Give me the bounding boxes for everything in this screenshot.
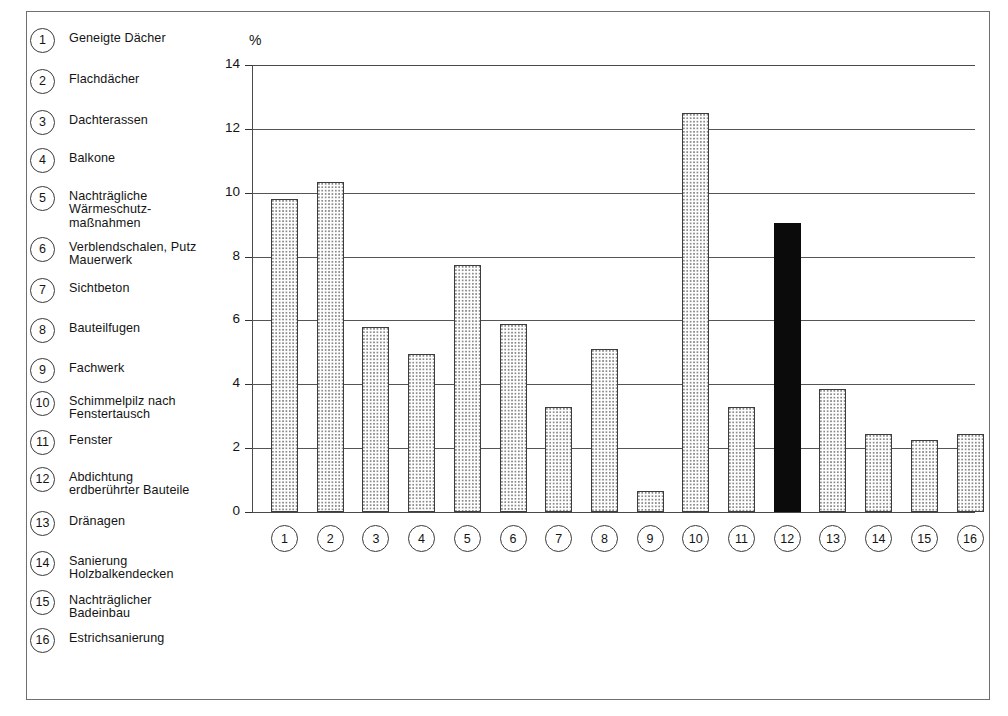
legend-number-badge: 9: [30, 358, 55, 383]
legend-item-label: Verblendschalen, Putz Mauerwerk: [69, 237, 196, 268]
plot-baseline: [252, 512, 975, 513]
legend-item-12: 12Abdichtung erdberührter Bauteile: [30, 467, 226, 498]
legend-number-badge: 5: [30, 186, 55, 211]
bar-16: [957, 434, 984, 512]
x-axis-badge-12: 12: [774, 525, 801, 552]
legend-item-label: Dachterassen: [69, 110, 148, 127]
y-axis-unit-label: %: [249, 32, 261, 48]
y-tick-label-6: 6: [206, 311, 240, 326]
legend-item-label: Fachwerk: [69, 358, 124, 375]
legend-number-badge: 12: [30, 467, 55, 492]
x-axis-badge-5: 5: [454, 525, 481, 552]
x-axis-badge-1: 1: [271, 525, 298, 552]
legend-number-badge: 13: [30, 511, 55, 536]
legend-item-label: Flachdächer: [69, 69, 139, 86]
legend-item-2: 2Flachdächer: [30, 69, 226, 94]
x-axis-badge-2: 2: [317, 525, 344, 552]
y-tick-label-14: 14: [206, 56, 240, 71]
legend-number-badge: 1: [30, 28, 55, 53]
y-tick-label-12: 12: [206, 120, 240, 135]
legend-item-4: 4Balkone: [30, 148, 226, 173]
bar-12: [774, 223, 801, 512]
x-axis-badge-3: 3: [362, 525, 389, 552]
legend-number-badge: 16: [30, 628, 55, 653]
legend-number-badge: 15: [30, 590, 55, 615]
y-tick-mark-12: [245, 129, 252, 130]
legend-number-badge: 10: [30, 391, 55, 416]
x-axis-badge-6: 6: [500, 525, 527, 552]
legend-number-badge: 4: [30, 148, 55, 173]
y-tick-label-2: 2: [206, 439, 240, 454]
y-tick-mark-2: [245, 448, 252, 449]
legend-item-16: 16Estrichsanierung: [30, 628, 226, 653]
x-axis-badge-15: 15: [911, 525, 938, 552]
legend-number-badge: 11: [30, 430, 55, 455]
legend-item-label: Geneigte Dächer: [69, 28, 166, 45]
legend-item-13: 13Dränagen: [30, 511, 226, 536]
legend-item-label: Nachträgliche Wärmeschutz- maßnahmen: [69, 186, 151, 230]
x-axis-badge-8: 8: [591, 525, 618, 552]
legend-item-label: Sanierung Holzbalkendecken: [69, 551, 174, 582]
legend-item-label: Abdichtung erdberührter Bauteile: [69, 467, 189, 498]
legend-item-label: Estrichsanierung: [69, 628, 164, 645]
bar-9: [637, 491, 664, 512]
bar-2: [317, 182, 344, 512]
legend-item-7: 7Sichtbeton: [30, 278, 226, 303]
y-tick-mark-14: [245, 65, 252, 66]
y-tick-mark-4: [245, 384, 252, 385]
y-tick-mark-6: [245, 320, 252, 321]
bar-7: [545, 407, 572, 512]
x-axis-badge-11: 11: [728, 525, 755, 552]
y-tick-label-0: 0: [206, 503, 240, 518]
legend-number-badge: 6: [30, 237, 55, 262]
legend-item-label: Balkone: [69, 148, 115, 165]
y-tick-mark-10: [245, 193, 252, 194]
bar-series: [252, 65, 975, 512]
legend-item-14: 14Sanierung Holzbalkendecken: [30, 551, 226, 582]
legend-number-badge: 7: [30, 278, 55, 303]
x-axis-badge-4: 4: [408, 525, 435, 552]
y-tick-mark-0: [245, 512, 252, 513]
x-axis-badge-14: 14: [865, 525, 892, 552]
legend-item-6: 6Verblendschalen, Putz Mauerwerk: [30, 237, 226, 268]
bar-1: [271, 199, 298, 512]
x-axis-badge-7: 7: [545, 525, 572, 552]
bar-8: [591, 349, 618, 512]
legend-item-11: 11Fenster: [30, 430, 226, 455]
bar-13: [819, 389, 846, 512]
legend-item-label: Sichtbeton: [69, 278, 130, 295]
legend-number-badge: 14: [30, 551, 55, 576]
legend-item-15: 15Nachträglicher Badeinbau: [30, 590, 226, 621]
bar-15: [911, 440, 938, 512]
chart-figure: 1Geneigte Dächer2Flachdächer3Dachterasse…: [0, 0, 1008, 716]
legend-item-label: Schimmelpilz nach Fenstertausch: [69, 391, 176, 422]
y-tick-label-10: 10: [206, 184, 240, 199]
legend-item-3: 3Dachterassen: [30, 110, 226, 135]
legend-number-badge: 2: [30, 69, 55, 94]
legend-item-10: 10Schimmelpilz nach Fenstertausch: [30, 391, 226, 422]
x-axis-badge-9: 9: [637, 525, 664, 552]
bar-4: [408, 354, 435, 512]
bar-11: [728, 407, 755, 512]
legend-number-badge: 8: [30, 318, 55, 343]
x-axis-labels: 12345678910111213141516: [252, 525, 975, 565]
legend-item-label: Dränagen: [69, 511, 125, 528]
y-tick-label-8: 8: [206, 248, 240, 263]
bar-5: [454, 265, 481, 512]
bar-6: [500, 324, 527, 512]
legend-item-label: Fenster: [69, 430, 112, 447]
legend-item-label: Nachträglicher Badeinbau: [69, 590, 152, 621]
y-tick-label-4: 4: [206, 375, 240, 390]
y-tick-mark-8: [245, 257, 252, 258]
bar-10: [682, 113, 709, 512]
x-axis-badge-10: 10: [682, 525, 709, 552]
x-axis-badge-13: 13: [819, 525, 846, 552]
x-axis-badge-16: 16: [957, 525, 984, 552]
legend-item-1: 1Geneigte Dächer: [30, 28, 226, 53]
legend-item-label: Bauteilfugen: [69, 318, 140, 335]
legend-number-badge: 3: [30, 110, 55, 135]
legend-item-9: 9Fachwerk: [30, 358, 226, 383]
legend-item-8: 8Bauteilfugen: [30, 318, 226, 343]
bar-3: [362, 327, 389, 512]
bar-14: [865, 434, 892, 512]
